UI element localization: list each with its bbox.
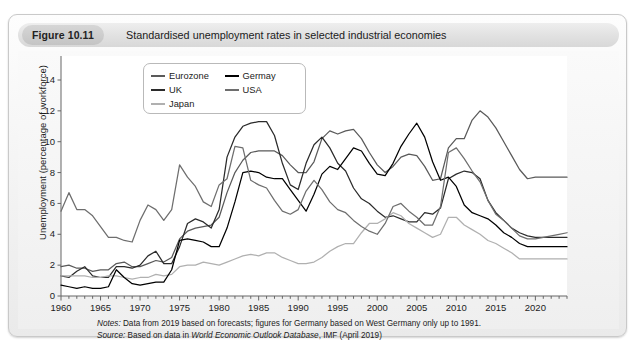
figure-notes-line: Notes: Data from 2019 based on forecasts… bbox=[97, 318, 597, 330]
source-pre-text: Based on data in bbox=[125, 331, 191, 340]
x-tick-2005: 2005 bbox=[400, 302, 434, 313]
x-tick-2015: 2015 bbox=[479, 302, 513, 313]
legend-item-uk[interactable]: UK bbox=[151, 83, 225, 96]
legend-item-japan[interactable]: Japan bbox=[151, 97, 225, 110]
legend-column-left: Eurozone UK Japan bbox=[151, 69, 225, 111]
legend-item-eurozone[interactable]: Eurozone bbox=[151, 69, 225, 82]
x-tick-1970: 1970 bbox=[123, 302, 157, 313]
notes-body-text: Data from 2019 based on forecasts; figur… bbox=[121, 319, 481, 328]
x-tick-1975: 1975 bbox=[163, 302, 197, 313]
x-tick-2000: 2000 bbox=[360, 302, 394, 313]
legend-label-germany: Germay bbox=[243, 71, 276, 81]
source-lead-label: Source: bbox=[97, 331, 125, 340]
source-publication-title: World Economic Outlook Database bbox=[191, 331, 318, 340]
legend-label-usa: USA bbox=[243, 85, 262, 95]
legend-swatch-uk bbox=[151, 89, 165, 91]
figure-caption-bar: Figure 10.11 Standardised unemployment r… bbox=[18, 23, 619, 47]
y-tick-14: 14 bbox=[33, 74, 55, 85]
legend-swatch-germany bbox=[225, 75, 239, 77]
y-tick-0: 0 bbox=[33, 290, 55, 301]
legend-item-usa[interactable]: USA bbox=[225, 83, 299, 96]
x-tick-1980: 1980 bbox=[202, 302, 236, 313]
y-tick-2: 2 bbox=[33, 259, 55, 270]
legend-swatch-usa bbox=[225, 89, 239, 91]
x-tick-2010: 2010 bbox=[439, 302, 473, 313]
x-tick-1965: 1965 bbox=[84, 302, 118, 313]
chart-panel: Unemployment (percentage of workforce) 0… bbox=[18, 51, 619, 329]
x-tick-1960: 1960 bbox=[44, 302, 78, 313]
legend-label-eurozone: Eurozone bbox=[169, 71, 209, 81]
x-tick-1985: 1985 bbox=[242, 302, 276, 313]
plot-background bbox=[61, 56, 567, 296]
unemployment-line-chart bbox=[18, 51, 619, 329]
y-tick-8: 8 bbox=[33, 167, 55, 178]
y-tick-10: 10 bbox=[33, 136, 55, 147]
figure-number-tag: Figure 10.11 bbox=[22, 25, 104, 45]
legend-swatch-japan bbox=[151, 103, 165, 105]
figure-caption-text: Standardised unemployment rates in selec… bbox=[126, 23, 447, 47]
figure-source-line: Source: Based on data in World Economic … bbox=[97, 330, 597, 342]
x-tick-2020: 2020 bbox=[518, 302, 552, 313]
chart-legend: Eurozone UK Japan Germay bbox=[143, 63, 306, 114]
figure-card: Figure 10.11 Standardised unemployment r… bbox=[8, 14, 627, 337]
y-tick-6: 6 bbox=[33, 197, 55, 208]
legend-label-uk: UK bbox=[169, 85, 182, 95]
legend-item-germany[interactable]: Germay bbox=[225, 69, 299, 82]
legend-label-japan: Japan bbox=[169, 99, 194, 109]
x-tick-1990: 1990 bbox=[281, 302, 315, 313]
figure-footnotes: Notes: Data from 2019 based on forecasts… bbox=[97, 318, 597, 341]
legend-swatch-eurozone bbox=[151, 75, 165, 77]
notes-lead-label: Notes: bbox=[97, 319, 121, 328]
y-tick-12: 12 bbox=[33, 105, 55, 116]
legend-column-right: Germay USA bbox=[225, 69, 299, 111]
source-post-text: , IMF (April 2019) bbox=[319, 331, 382, 340]
y-tick-4: 4 bbox=[33, 228, 55, 239]
x-tick-1995: 1995 bbox=[321, 302, 355, 313]
